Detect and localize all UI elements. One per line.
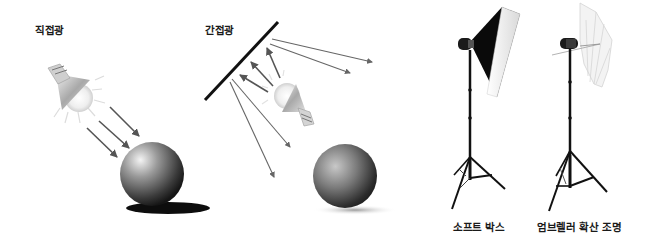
indirect-sphere <box>313 144 377 208</box>
lighting-diagram <box>0 0 652 247</box>
direct-light-arrows <box>87 107 139 157</box>
direct-light-label: 직접광 <box>35 22 64 37</box>
umbrella-diffusion-label: 엄브렐러 확산 조명 <box>537 219 621 234</box>
direct-sphere <box>120 142 184 206</box>
indirect-light-bulb-icon <box>262 70 314 126</box>
umbrella-light-icon <box>549 3 612 211</box>
softbox-label: 소프트 박스 <box>453 219 505 234</box>
direct-sphere-shadow <box>126 202 210 214</box>
direct-light-bulb-icon <box>48 64 105 123</box>
indirect-light-label: 간접광 <box>205 22 234 37</box>
softbox-light-icon <box>452 7 520 209</box>
indirect-sphere-shadow <box>313 205 397 215</box>
